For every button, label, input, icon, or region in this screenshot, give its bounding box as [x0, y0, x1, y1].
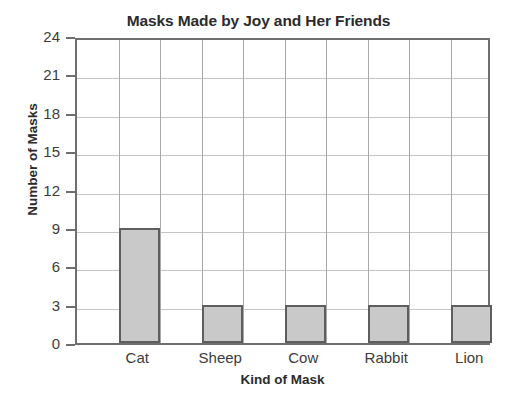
bar	[119, 228, 161, 343]
y-axis-tick-mark	[66, 229, 75, 231]
y-axis-tick-label: 0	[20, 335, 60, 352]
y-axis-tick-label: 21	[20, 66, 60, 83]
y-axis-tick-label: 24	[20, 28, 60, 45]
y-axis-tick-mark	[66, 75, 75, 77]
bar	[285, 305, 327, 343]
y-axis-tick-mark	[66, 344, 75, 346]
y-axis-tick-mark	[66, 306, 75, 308]
y-axis-tick-label: 3	[20, 297, 60, 314]
plot-area	[75, 38, 490, 345]
y-axis-tick-label: 6	[20, 258, 60, 275]
bar-chart-figure: Masks Made by Joy and Her Friends 036912…	[0, 0, 517, 405]
y-axis-tick-mark	[66, 191, 75, 193]
bars-layer	[77, 40, 488, 343]
y-axis-tick-mark	[66, 37, 75, 39]
bar	[451, 305, 493, 343]
bar	[368, 305, 410, 343]
x-axis-title: Kind of Mask	[75, 372, 490, 387]
y-axis-tick-mark	[66, 114, 75, 116]
y-axis-tick-mark	[66, 152, 75, 154]
y-axis-tick-mark	[66, 267, 75, 269]
bar	[202, 305, 244, 343]
chart-title: Masks Made by Joy and Her Friends	[0, 12, 517, 30]
x-axis-tick-label: Lion	[419, 349, 517, 366]
y-axis-title: Number of Masks	[25, 90, 40, 230]
